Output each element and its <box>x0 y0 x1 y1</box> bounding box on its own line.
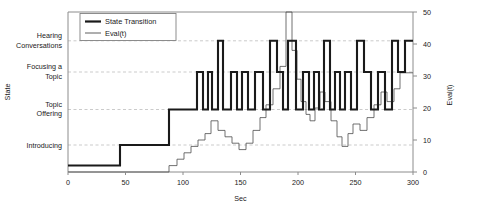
x-tick-label-200: 200 <box>292 178 304 187</box>
y-right-axis-tick-labels: 0 10 20 30 40 50 <box>423 8 431 177</box>
x-tick-label-300: 300 <box>407 178 419 187</box>
y-category-focusing-a-topic-line1: Focusing a <box>27 62 62 71</box>
y-category-topic-offering-line2: Offering <box>37 109 62 118</box>
legend-label-eval: Eval(t) <box>105 29 126 38</box>
y-category-focusing-a-topic-line2: Topic <box>45 72 62 81</box>
y-category-hearing-conversations-line2: Conversations <box>16 41 62 50</box>
x-tick-label-0: 0 <box>66 178 70 187</box>
chart-canvas: 0 50 100 150 200 250 300 Sec 0 10 20 30 … <box>0 0 482 216</box>
y-right-axis-title: Eval(t) <box>445 85 454 106</box>
chart-screenshot: 0 50 100 150 200 250 300 Sec 0 10 20 30 … <box>0 0 482 216</box>
x-tick-label-50: 50 <box>122 178 130 187</box>
y-left-category-labels: Hearing Conversations Focusing a Topic T… <box>16 31 62 150</box>
y-category-hearing-conversations-line1: Hearing <box>37 31 62 40</box>
y2-tick-label-40: 40 <box>423 40 431 49</box>
y-left-axis-title: State <box>3 84 12 101</box>
legend-label-state-transition: State Transition <box>105 17 156 26</box>
x-axis-tick-labels: 0 50 100 150 200 250 300 <box>66 178 419 187</box>
y2-tick-label-10: 10 <box>423 136 431 145</box>
y2-tick-label-30: 30 <box>423 72 431 81</box>
y-category-topic-offering-line1: Topic <box>45 100 62 109</box>
y-category-introducing: Introducing <box>26 141 62 150</box>
x-axis-title: Sec <box>234 194 247 203</box>
y2-tick-label-20: 20 <box>423 104 431 113</box>
x-tick-label-100: 100 <box>177 178 189 187</box>
y2-tick-label-50: 50 <box>423 8 431 17</box>
y-right-axis-ticks <box>413 12 417 172</box>
x-tick-label-150: 150 <box>235 178 247 187</box>
legend: State Transition Eval(t) <box>80 14 176 41</box>
x-tick-label-250: 250 <box>350 178 362 187</box>
y2-tick-label-0: 0 <box>423 168 427 177</box>
